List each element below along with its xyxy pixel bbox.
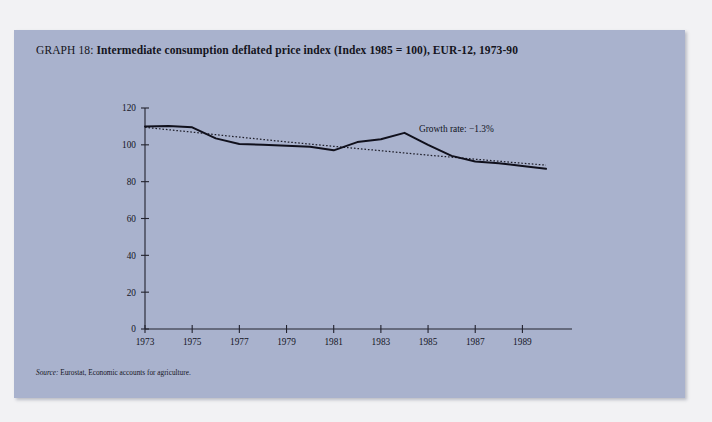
- x-axis-tick-label: 1975: [183, 337, 202, 347]
- y-axis-tick-label: 100: [122, 140, 136, 150]
- x-axis-ticks: 197319751977197919811983198519871989: [136, 325, 532, 347]
- x-axis-tick-label: 1985: [419, 337, 438, 347]
- figure-panel: GRAPH 18: Intermediate consumption defla…: [14, 30, 685, 398]
- source-text: Eurostat, Economic accounts for agricult…: [60, 368, 191, 377]
- x-axis-tick-label: 1973: [136, 337, 155, 347]
- y-axis-tick-label: 40: [127, 251, 137, 261]
- source-note: Source: Eurostat, Economic accounts for …: [36, 368, 191, 377]
- line-chart: 020406080100120 197319751977197919811983…: [14, 30, 685, 398]
- x-axis-tick-label: 1977: [230, 337, 249, 347]
- y-axis-tick-label: 0: [131, 324, 136, 334]
- chart-plot-area: 020406080100120 197319751977197919811983…: [14, 30, 685, 398]
- y-axis-tick-label: 20: [127, 288, 137, 298]
- x-axis-tick-label: 1981: [324, 337, 343, 347]
- y-axis-tick-label: 120: [122, 103, 136, 113]
- chart-annotations: Growth rate: −1.3%: [419, 124, 494, 134]
- x-axis-tick-label: 1987: [466, 337, 485, 347]
- x-axis-tick-label: 1979: [277, 337, 296, 347]
- x-axis-tick-label: 1983: [372, 337, 391, 347]
- x-axis-tick-label: 1989: [513, 337, 532, 347]
- y-axis-tick-label: 80: [127, 177, 137, 187]
- y-axis-tick-label: 60: [127, 214, 137, 224]
- annotation-growth-rate: Growth rate: −1.3%: [419, 124, 494, 134]
- source-label: Source:: [36, 368, 58, 377]
